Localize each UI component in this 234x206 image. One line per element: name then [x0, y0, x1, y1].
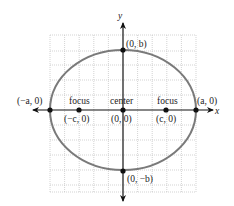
y-axis-label: y	[117, 11, 123, 21]
label-focus-left-word: focus	[69, 96, 90, 106]
x-axis-label: x	[214, 106, 220, 116]
label-covertex-top: (0, b)	[126, 39, 147, 50]
ellipse-diagram: x y (−a, 0) (a, 0) (0, b) (0, −b) focus …	[0, 0, 234, 206]
point-center	[120, 107, 125, 112]
label-center-coord: (0, 0)	[111, 114, 132, 125]
point-covertex-top	[120, 47, 125, 52]
label-vertex-right: (a, 0)	[197, 96, 217, 107]
point-focus-right	[163, 107, 168, 112]
label-covertex-bottom: (0, −b)	[127, 174, 153, 185]
point-vertex-left	[47, 107, 52, 112]
point-covertex-bottom	[120, 168, 125, 173]
label-focus-left-coord: (−c, 0)	[64, 114, 89, 125]
point-vertex-right	[193, 107, 198, 112]
label-focus-right-coord: (c, 0)	[156, 114, 176, 125]
label-center-word: center	[110, 96, 134, 106]
label-focus-right-word: focus	[157, 96, 178, 106]
label-vertex-left: (−a, 0)	[17, 96, 42, 107]
point-focus-left	[76, 107, 81, 112]
